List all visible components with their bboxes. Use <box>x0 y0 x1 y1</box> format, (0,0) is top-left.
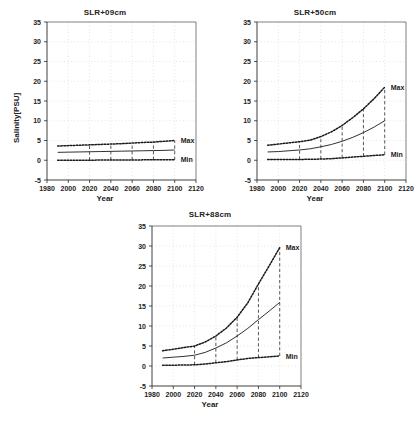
svg-text:10: 10 <box>33 117 41 124</box>
svg-text:Max: Max <box>391 84 405 91</box>
svg-text:25: 25 <box>243 58 251 65</box>
plot-area: 19802000202020402060208021002120-5051015… <box>105 210 315 415</box>
svg-text:1980: 1980 <box>39 185 55 192</box>
chart-panel-slr-50cm: SLR+50cm 1980200020202040206020802100212… <box>210 8 420 208</box>
svg-text:20: 20 <box>243 78 251 85</box>
svg-text:20: 20 <box>33 78 41 85</box>
svg-text:10: 10 <box>138 323 146 330</box>
svg-text:Max: Max <box>181 137 195 144</box>
svg-text:30: 30 <box>243 38 251 45</box>
svg-text:5: 5 <box>247 137 251 144</box>
svg-text:2060: 2060 <box>334 185 350 192</box>
svg-text:30: 30 <box>138 243 146 250</box>
svg-text:25: 25 <box>33 58 41 65</box>
figure-salinity-slr-scenarios: SLR+09cm Salinity[PSU] 19802000202020402… <box>0 0 420 423</box>
svg-text:0: 0 <box>142 363 146 370</box>
svg-text:Max: Max <box>286 244 300 251</box>
svg-text:2100: 2100 <box>377 185 393 192</box>
svg-text:2040: 2040 <box>313 185 329 192</box>
svg-text:15: 15 <box>138 303 146 310</box>
svg-text:2040: 2040 <box>103 185 119 192</box>
svg-text:35: 35 <box>138 223 146 230</box>
plot-area: 19802000202020402060208021002120-5051015… <box>0 8 210 208</box>
svg-text:0: 0 <box>37 157 41 164</box>
svg-text:2080: 2080 <box>251 391 267 398</box>
svg-text:2100: 2100 <box>272 391 288 398</box>
svg-text:35: 35 <box>33 19 41 26</box>
svg-text:2000: 2000 <box>165 391 181 398</box>
svg-text:2000: 2000 <box>60 185 76 192</box>
svg-text:5: 5 <box>37 137 41 144</box>
svg-text:15: 15 <box>243 98 251 105</box>
svg-text:5: 5 <box>142 343 146 350</box>
svg-text:Min: Min <box>181 156 193 163</box>
svg-text:2060: 2060 <box>229 391 245 398</box>
svg-text:25: 25 <box>138 263 146 270</box>
x-axis-label: Year <box>105 400 315 409</box>
plot-area: 19802000202020402060208021002120-5051015… <box>210 8 420 208</box>
svg-text:2100: 2100 <box>167 185 183 192</box>
chart-panel-slr-09cm: SLR+09cm Salinity[PSU] 19802000202020402… <box>0 8 210 208</box>
svg-text:2080: 2080 <box>356 185 372 192</box>
chart-panel-slr-88cm: SLR+88cm 1980200020202040206020802100212… <box>105 210 315 415</box>
svg-text:1980: 1980 <box>144 391 160 398</box>
svg-text:Min: Min <box>391 151 403 158</box>
svg-text:0: 0 <box>247 157 251 164</box>
svg-text:20: 20 <box>138 283 146 290</box>
svg-text:2080: 2080 <box>146 185 162 192</box>
svg-text:15: 15 <box>33 98 41 105</box>
svg-text:-5: -5 <box>140 383 146 390</box>
x-axis-label: Year <box>0 194 210 203</box>
svg-text:35: 35 <box>243 19 251 26</box>
svg-text:-5: -5 <box>35 177 41 184</box>
svg-text:10: 10 <box>243 117 251 124</box>
svg-text:2120: 2120 <box>293 391 309 398</box>
x-axis-label: Year <box>210 194 420 203</box>
svg-text:2120: 2120 <box>188 185 204 192</box>
svg-text:2060: 2060 <box>124 185 140 192</box>
svg-text:Min: Min <box>286 353 298 360</box>
svg-text:2020: 2020 <box>82 185 98 192</box>
svg-text:2120: 2120 <box>398 185 414 192</box>
svg-text:2040: 2040 <box>208 391 224 398</box>
svg-text:2020: 2020 <box>187 391 203 398</box>
svg-text:30: 30 <box>33 38 41 45</box>
svg-text:2020: 2020 <box>292 185 308 192</box>
svg-text:-5: -5 <box>245 177 251 184</box>
svg-text:1980: 1980 <box>249 185 265 192</box>
svg-text:2000: 2000 <box>270 185 286 192</box>
